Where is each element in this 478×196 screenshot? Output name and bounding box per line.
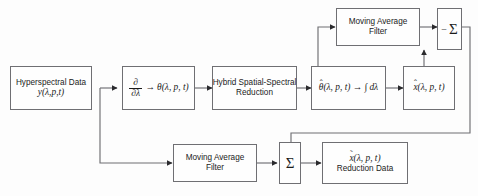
estimate-expression: ˆx(λ, p, t)	[413, 82, 444, 93]
derivative-expression: ∂ ∂λ → θ(λ, p, t)	[128, 78, 188, 98]
block-reduction-data-output: ˜x(λ, p, t) Reduction Data	[322, 142, 408, 184]
block-hybrid-spatial-spectral-reduction: Hybrid Spatial-Spectral Reduction	[212, 66, 297, 110]
block-moving-average-filter-bottom: Moving Average Filter	[173, 144, 257, 182]
block-hyperspectral-data: Hyperspectral Data y(λ,p,t)	[10, 66, 92, 110]
reduction-data-label: Reduction Data	[337, 164, 393, 174]
x-hat: ˆx	[413, 82, 417, 93]
x-tilde: ˜x	[349, 153, 353, 164]
sigma-icon: Σ	[286, 155, 295, 172]
theta-hat-accent: ˆ	[319, 79, 324, 88]
subtract-sum-inner: − Σ	[441, 21, 457, 38]
partial-derivative-fraction: ∂ ∂λ	[129, 78, 142, 98]
output-args: (λ, p, t)	[354, 153, 381, 163]
moving-average-bottom-line1: Moving Average	[186, 153, 245, 163]
derivative-denominator: ∂λ	[129, 89, 142, 99]
hyperspectral-data-signal: y(λ,p,t)	[38, 87, 64, 98]
block-add-summing-junction: Σ	[279, 142, 301, 184]
integral-expression: ∫ dλ	[364, 82, 378, 92]
minus-sign-icon: −	[441, 24, 447, 35]
output-expression: ˜x(λ, p, t)	[349, 153, 380, 164]
integration-expression: ˆθ(λ, p, t) → ∫ dλ	[319, 82, 378, 93]
wire-integration-to-filter-top	[318, 27, 335, 71]
hybrid-reduction-line1: Hybrid Spatial-Spectral	[213, 78, 297, 88]
moving-average-bottom-line2: Filter	[206, 163, 224, 173]
sigma-icon: Σ	[449, 21, 458, 38]
integration-source-args: (λ, p, t)	[323, 82, 350, 92]
hyperspectral-data-label: Hyperspectral Data	[16, 78, 86, 88]
derivative-arrow-icon: →	[145, 82, 154, 92]
block-spectral-derivative: ∂ ∂λ → θ(λ, p, t)	[122, 66, 195, 110]
block-estimated-signal: ˆx(λ, p, t)	[403, 66, 455, 110]
block-moving-average-filter-top: Moving Average Filter	[336, 8, 420, 46]
theta-hat: ˆθ	[319, 82, 324, 93]
block-subtract-summing-junction: − Σ	[437, 8, 462, 50]
integration-arrow-icon: →	[353, 82, 362, 92]
estimate-args: (λ, p, t)	[418, 82, 445, 92]
x-tilde-accent: ˜	[349, 149, 353, 158]
moving-average-top-line1: Moving Average	[349, 17, 408, 27]
block-integration: ˆθ(λ, p, t) → ∫ dλ	[311, 66, 386, 110]
moving-average-top-line2: Filter	[369, 27, 387, 37]
x-hat-accent: ˆ	[413, 79, 417, 88]
derivative-numerator: ∂	[131, 78, 140, 88]
block-diagram: Hyperspectral Data y(λ,p,t) ∂ ∂λ → θ(λ, …	[0, 0, 478, 196]
derivative-result: θ(λ, p, t)	[157, 82, 189, 92]
hybrid-reduction-line2: Reduction	[236, 88, 273, 98]
